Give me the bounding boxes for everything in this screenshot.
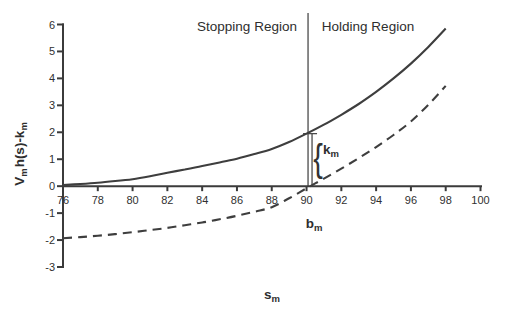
y-title-sub2: m — [18, 122, 29, 130]
b-m-label: bm — [306, 217, 323, 232]
stopping-region-label: Stopping Region — [197, 20, 297, 34]
chart: Stopping Region Holding Region Vmh(s)-km… — [0, 0, 511, 317]
x-tick-label: 80 — [126, 195, 138, 206]
holding-region-label: Holding Region — [322, 20, 414, 34]
x-axis-title: sm — [264, 288, 280, 303]
y-title-sub1: m — [18, 168, 29, 176]
x-tick-label: 88 — [266, 195, 278, 206]
dashed-curve — [63, 86, 446, 238]
plot-canvas — [0, 0, 511, 317]
x-tick-label: 76 — [57, 195, 69, 206]
y-tick-label: -1 — [45, 208, 55, 219]
x-tick-label: 100 — [471, 195, 489, 206]
x-title-base: s — [264, 287, 272, 302]
y-tick-label: 1 — [49, 154, 55, 165]
x-title-sub: m — [272, 293, 280, 304]
k-m-sub: m — [331, 148, 339, 159]
k-m-brace-icon: { — [313, 138, 323, 177]
k-m-label: km — [323, 143, 339, 158]
x-tick-label: 94 — [370, 195, 382, 206]
y-title-base2: h(s)-k — [12, 131, 27, 168]
x-tick-label: 82 — [161, 195, 173, 206]
k-m-base: k — [323, 142, 331, 157]
x-tick-label: 84 — [196, 195, 208, 206]
x-tick-label: 98 — [440, 195, 452, 206]
x-tick-label: 92 — [335, 195, 347, 206]
x-tick-label: 96 — [405, 195, 417, 206]
y-tick-label: 2 — [49, 127, 55, 138]
y-tick-label: -3 — [45, 262, 55, 273]
x-tick-label: 86 — [231, 195, 243, 206]
x-tick-label: 78 — [92, 195, 104, 206]
y-tick-label: 0 — [49, 181, 55, 192]
y-tick-label: 5 — [49, 46, 55, 57]
y-axis-title: Vmh(s)-km — [13, 122, 28, 186]
b-m-sub: m — [314, 222, 322, 233]
y-tick-label: 6 — [49, 19, 55, 30]
solid-curve — [63, 29, 446, 186]
y-tick-label: 3 — [49, 100, 55, 111]
x-tick-label: 90 — [300, 195, 312, 206]
y-tick-label: -2 — [45, 235, 55, 246]
y-tick-label: 4 — [49, 73, 55, 84]
y-title-base1: V — [12, 177, 27, 186]
